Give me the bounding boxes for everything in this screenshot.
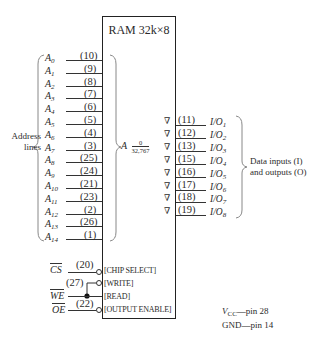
address-pin: (8) xyxy=(84,76,96,87)
io-signal-name: I/O xyxy=(210,169,223,179)
io-signal: I/O4 xyxy=(210,156,226,168)
we-signal: WE xyxy=(50,289,64,301)
io-signal-sub: 3 xyxy=(223,147,227,155)
address-pin: (4) xyxy=(84,127,96,138)
address-signal-sub: 1 xyxy=(51,70,55,78)
io-wire xyxy=(176,138,206,139)
address-pin: (5) xyxy=(84,114,96,125)
io-signal: I/O2 xyxy=(210,130,226,142)
address-pin: (23) xyxy=(80,191,98,202)
address-signal: A11 xyxy=(45,193,58,206)
io-signal-name: I/O xyxy=(210,143,223,153)
address-signal: A0 xyxy=(45,52,55,65)
io-signal: I/O3 xyxy=(210,143,226,155)
address-signal: A8 xyxy=(45,154,55,167)
address-range-bottom: 32,767 xyxy=(132,147,150,154)
address-signal: A1 xyxy=(45,65,55,78)
read-label: [READ] xyxy=(104,292,130,301)
address-signal: A12 xyxy=(45,206,58,219)
address-signal: A6 xyxy=(45,129,55,142)
tristate-buffer-icon: ∇ xyxy=(164,129,170,139)
data-io-label-line2: and outputs (O) xyxy=(250,167,307,178)
io-signal-name: I/O xyxy=(210,130,223,140)
io-signal-sub: 1 xyxy=(223,121,227,129)
tristate-buffer-icon: ∇ xyxy=(164,116,170,126)
io-pin: (12) xyxy=(178,127,196,138)
address-signal-sub: 12 xyxy=(51,211,58,219)
address-signal: A10 xyxy=(45,180,58,193)
io-signal-sub: 8 xyxy=(223,211,227,219)
io-pin: (11) xyxy=(178,114,195,125)
data-io-label: Data inputs (I) and outputs (O) xyxy=(250,156,307,178)
address-signal-sub: 4 xyxy=(51,108,55,116)
address-signal-sub: 14 xyxy=(51,236,58,244)
tristate-buffer-icon: ∇ xyxy=(164,193,170,203)
io-pin: (16) xyxy=(178,166,196,177)
address-pin: (25) xyxy=(80,152,98,163)
oe-label: [OUTPUT ENABLE] xyxy=(104,305,171,314)
address-signal-sub: 6 xyxy=(51,134,55,142)
tristate-buffer-icon: ∇ xyxy=(164,155,170,165)
address-signal-sub: 2 xyxy=(51,83,55,91)
io-signal: I/O7 xyxy=(210,194,226,206)
io-pin: (15) xyxy=(178,153,196,164)
address-signal: A13 xyxy=(45,218,58,231)
address-pin: (3) xyxy=(84,140,96,151)
vcc-text: —pin 28 xyxy=(237,306,269,316)
io-pin: (17) xyxy=(178,179,196,190)
address-signal: A7 xyxy=(45,142,55,155)
address-pin: (2) xyxy=(84,204,96,215)
oe-signal: OE xyxy=(52,303,65,315)
tristate-buffer-icon: ∇ xyxy=(164,142,170,152)
io-signal-sub: 5 xyxy=(223,173,227,181)
vcc-line: VCC—pin 28 xyxy=(222,306,273,320)
address-signal-sub: 5 xyxy=(51,121,55,129)
address-signal-sub: 0 xyxy=(51,57,55,65)
address-signal: A5 xyxy=(45,116,55,129)
io-signal-sub: 7 xyxy=(223,198,227,206)
address-pin: (21) xyxy=(80,178,98,189)
data-io-label-line1: Data inputs (I) xyxy=(250,156,307,167)
io-signal-name: I/O xyxy=(210,156,223,166)
address-label-line2: lines xyxy=(3,142,41,153)
address-range: A 0 32,767 xyxy=(121,139,149,154)
io-wire xyxy=(176,215,206,216)
cs-label: [CHIP SELECT] xyxy=(104,266,156,275)
io-pin: (18) xyxy=(178,191,196,202)
io-signal-sub: 6 xyxy=(223,186,227,194)
io-wire xyxy=(176,125,206,126)
write-label: [WRITE] xyxy=(104,279,133,288)
io-signal-name: I/O xyxy=(210,182,223,192)
gnd-line: GND—pin 14 xyxy=(222,320,273,331)
io-pin: (13) xyxy=(178,140,196,151)
io-signal-sub: 2 xyxy=(223,134,227,142)
io-signal-name: I/O xyxy=(210,117,223,127)
address-signal-sub: 3 xyxy=(51,95,55,103)
address-lines-label: Address lines xyxy=(3,131,41,153)
io-signal: I/O6 xyxy=(210,182,226,194)
io-signal-name: I/O xyxy=(210,194,223,204)
write-pin: (27) xyxy=(66,277,84,288)
address-signal: A2 xyxy=(45,78,55,91)
address-pin: (26) xyxy=(80,216,98,227)
address-signal-sub: 10 xyxy=(51,185,58,193)
cs-pin: (20) xyxy=(76,259,94,270)
io-pin: (19) xyxy=(178,204,196,215)
io-signal-sub: 4 xyxy=(223,160,227,168)
oe-pin: (22) xyxy=(76,298,94,309)
address-range-top: 0 xyxy=(132,139,150,147)
cs-inverter-bubble xyxy=(96,269,102,275)
io-signal: I/O8 xyxy=(210,207,226,219)
tristate-buffer-icon: ∇ xyxy=(164,206,170,216)
tristate-buffer-icon: ∇ xyxy=(164,168,170,178)
address-pin: (24) xyxy=(80,165,98,176)
vcc-sub: CC xyxy=(228,310,237,318)
io-wire xyxy=(176,202,206,203)
address-signal: A9 xyxy=(45,167,55,180)
io-signal: I/O1 xyxy=(210,117,226,129)
address-signal: A14 xyxy=(45,231,58,244)
address-pin: (1) xyxy=(84,229,96,240)
power-pins: VCC—pin 28 GND—pin 14 xyxy=(222,306,273,331)
cs-signal: CS xyxy=(50,263,62,275)
address-signal-sub: 11 xyxy=(51,198,57,206)
